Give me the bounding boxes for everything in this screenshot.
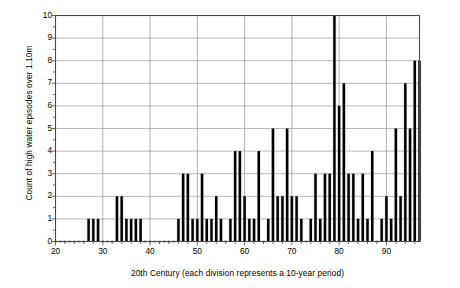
bar bbox=[130, 219, 132, 242]
bar bbox=[239, 151, 241, 241]
bar bbox=[196, 219, 198, 242]
bar bbox=[206, 219, 208, 242]
bar bbox=[324, 174, 326, 242]
bar bbox=[281, 196, 283, 241]
bar bbox=[395, 129, 397, 242]
bar bbox=[399, 196, 401, 241]
bar bbox=[352, 174, 354, 242]
bar bbox=[229, 219, 231, 242]
bar bbox=[258, 151, 260, 241]
bar bbox=[135, 219, 137, 242]
bar bbox=[92, 219, 94, 242]
bar bbox=[187, 174, 189, 242]
bar bbox=[300, 219, 302, 242]
bar bbox=[291, 196, 293, 241]
bar bbox=[120, 196, 122, 241]
bar bbox=[276, 196, 278, 241]
bar bbox=[116, 196, 118, 241]
bar bbox=[191, 219, 193, 242]
bar bbox=[409, 129, 411, 242]
bar bbox=[87, 219, 89, 242]
bar bbox=[414, 61, 416, 242]
bar bbox=[319, 219, 321, 242]
bar bbox=[338, 106, 340, 242]
bar bbox=[362, 174, 364, 242]
bar bbox=[201, 174, 203, 242]
bar bbox=[272, 129, 274, 242]
bar bbox=[97, 219, 99, 242]
bar bbox=[366, 219, 368, 242]
bar bbox=[371, 151, 373, 241]
bar bbox=[357, 219, 359, 242]
bar bbox=[243, 196, 245, 241]
bar bbox=[234, 151, 236, 241]
bar bbox=[177, 219, 179, 242]
bar bbox=[286, 129, 288, 242]
bar bbox=[347, 174, 349, 242]
bar bbox=[267, 219, 269, 242]
plot-area bbox=[0, 0, 460, 288]
bar bbox=[220, 219, 222, 242]
bar bbox=[404, 83, 406, 241]
bar bbox=[125, 219, 127, 242]
bar bbox=[385, 196, 387, 241]
chart-container: Count of high water episodes over 1.10m … bbox=[0, 0, 460, 288]
bar bbox=[314, 174, 316, 242]
bar bbox=[248, 219, 250, 242]
bar bbox=[210, 219, 212, 242]
bar bbox=[295, 196, 297, 241]
bar bbox=[343, 83, 345, 241]
bar bbox=[333, 16, 335, 242]
bar bbox=[328, 174, 330, 242]
bar bbox=[253, 219, 255, 242]
bar bbox=[310, 219, 312, 242]
bar bbox=[182, 174, 184, 242]
bar bbox=[215, 196, 217, 241]
bar bbox=[139, 219, 141, 242]
bar bbox=[380, 219, 382, 242]
bar bbox=[390, 219, 392, 242]
